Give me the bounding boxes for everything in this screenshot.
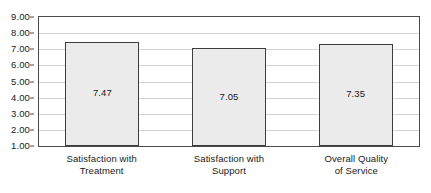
y-axis-tick-mark [30,17,34,18]
y-axis-tick-mark [30,81,34,82]
x-axis-label-line: Satisfaction with [38,153,165,165]
y-axis-tick-mark [30,113,34,114]
y-axis-tick-label: 4.00 [11,93,30,103]
y-axis-tick-label: 9.00 [11,12,30,22]
y-axis-tick-mark [30,33,34,34]
bar: 7.05 [192,48,266,146]
y-axis-tick-label: 2.00 [11,125,30,135]
y-axis: 9.008.007.006.005.004.003.002.001.00 [0,16,34,147]
y-axis-tick-mark [30,129,34,130]
y-axis-tick-mark [30,97,34,98]
x-axis-label-line: Satisfaction with [165,153,292,165]
plot-area: 7.477.057.35 [38,16,420,147]
bar-slot: 7.47 [39,17,166,146]
y-axis-tick-mark [30,65,34,66]
x-axis-label-line: of Service [293,165,420,177]
x-axis-label-line: Treatment [38,165,165,177]
bar-slot: 7.35 [292,17,419,146]
bar-value-label: 7.35 [320,88,392,99]
x-axis: Satisfaction withTreatmentSatisfaction w… [38,150,420,190]
y-axis-tick-label: 5.00 [11,77,30,87]
y-axis-tick-label: 6.00 [11,60,30,70]
y-axis-tick-label: 1.00 [11,141,30,151]
y-axis-tick-label: 8.00 [11,28,30,38]
x-axis-category-label: Overall Qualityof Service [293,150,420,190]
bar-value-label: 7.47 [66,87,138,98]
bars-container: 7.477.057.35 [39,17,419,146]
x-axis-label-line: Support [165,165,292,177]
y-axis-tick-mark [30,146,34,147]
bar: 7.47 [65,42,139,146]
bar-value-label: 7.05 [193,91,265,102]
y-axis-tick-label: 3.00 [11,109,30,119]
bar: 7.35 [319,44,393,146]
bar-slot: 7.05 [166,17,293,146]
y-axis-tick-mark [30,49,34,50]
y-axis-tick-label: 7.00 [11,44,30,54]
x-axis-label-line: Overall Quality [293,153,420,165]
bar-chart: 9.008.007.006.005.004.003.002.001.00 7.4… [0,0,431,193]
x-axis-category-label: Satisfaction withSupport [165,150,292,190]
x-axis-category-label: Satisfaction withTreatment [38,150,165,190]
